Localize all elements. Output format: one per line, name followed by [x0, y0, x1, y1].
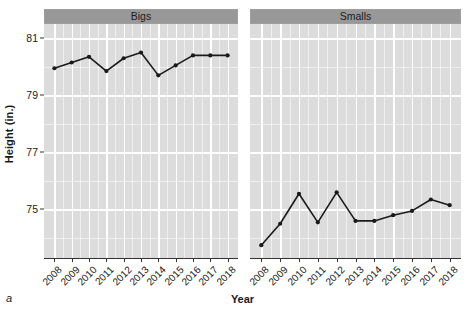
x-tick-mark: [228, 258, 229, 262]
x-tick-mark: [280, 258, 281, 262]
x-tick-mark: [299, 258, 300, 262]
x-axis-title: Year: [18, 293, 467, 305]
facet-strip-label: Smalls: [340, 11, 372, 22]
x-axis-smalls: 2008200920102011201220132014201520162017…: [250, 258, 461, 298]
data-point: [391, 213, 395, 217]
data-point: [191, 53, 195, 57]
x-tick-mark: [193, 258, 194, 262]
data-point: [87, 55, 91, 59]
plot-area-bigs: [44, 24, 238, 258]
series-bigs: [44, 24, 238, 258]
y-axis: 81797775: [18, 0, 44, 268]
data-point: [70, 60, 74, 64]
data-point: [104, 69, 108, 73]
facet-strip-label: Bigs: [131, 11, 151, 22]
data-point: [297, 192, 301, 196]
x-tick-mark: [141, 258, 142, 262]
x-tick-mark: [106, 258, 107, 262]
data-point: [156, 73, 160, 77]
y-axis-title-text: Height (in.): [3, 105, 15, 164]
x-tick-mark: [431, 258, 432, 262]
plot-area-smalls: [250, 24, 461, 258]
x-tick-mark: [374, 258, 375, 262]
y-tick-label: 81: [26, 32, 38, 44]
series-line: [54, 53, 227, 76]
x-tick-mark: [261, 258, 262, 262]
data-point: [372, 219, 376, 223]
data-point: [139, 50, 143, 54]
facet-strip-smalls: Smalls: [250, 9, 461, 24]
data-point: [335, 190, 339, 194]
series-line: [261, 192, 449, 245]
x-axis-bigs: 2008200920102011201220132014201520162017…: [44, 258, 238, 298]
series-smalls: [250, 24, 461, 258]
figure-root: Height (in.) 81797775 Bigs Smalls 200820…: [0, 0, 467, 315]
x-tick-mark: [210, 258, 211, 262]
x-tick-mark: [158, 258, 159, 262]
x-tick-mark: [89, 258, 90, 262]
y-tick-label: 77: [26, 146, 38, 158]
x-tick-mark: [337, 258, 338, 262]
y-tick-label: 79: [26, 89, 38, 101]
x-tick-mark: [393, 258, 394, 262]
x-tick-mark: [54, 258, 55, 262]
data-point: [353, 219, 357, 223]
data-point: [448, 203, 452, 207]
panel-letter: a: [6, 292, 12, 304]
data-point: [259, 243, 263, 247]
data-point: [316, 220, 320, 224]
facet-strip-bigs: Bigs: [44, 9, 238, 24]
data-point: [208, 53, 212, 57]
data-point: [174, 63, 178, 67]
x-tick-mark: [412, 258, 413, 262]
x-tick-mark: [450, 258, 451, 262]
x-tick-mark: [356, 258, 357, 262]
y-tick-label: 75: [26, 203, 38, 215]
data-point: [52, 66, 56, 70]
x-tick-mark: [72, 258, 73, 262]
data-point: [429, 197, 433, 201]
data-point: [278, 222, 282, 226]
x-tick-mark: [124, 258, 125, 262]
data-point: [226, 53, 230, 57]
data-point: [410, 209, 414, 213]
x-tick-mark: [318, 258, 319, 262]
data-point: [122, 56, 126, 60]
y-axis-title: Height (in.): [0, 0, 18, 268]
x-tick-mark: [176, 258, 177, 262]
